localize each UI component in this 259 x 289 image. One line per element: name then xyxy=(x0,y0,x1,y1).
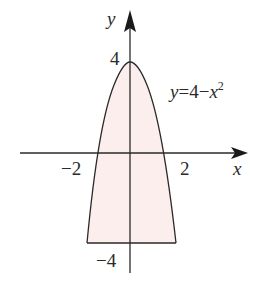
equation-rhs: =4− xyxy=(178,81,209,102)
equation-exponent: 2 xyxy=(218,79,224,93)
curve-equation-label: y=4−x2 xyxy=(168,79,224,102)
x-axis-label: x xyxy=(232,158,242,179)
equation-lhs: y xyxy=(168,81,179,102)
tick-label-y-neg4: −4 xyxy=(96,250,117,271)
y-axis-label: y xyxy=(105,8,116,29)
tick-label-y-4: 4 xyxy=(110,48,120,69)
tick-label-x-neg2: −2 xyxy=(61,158,81,179)
parabola-figure: y x 4 −2 2 −4 y=4−x2 xyxy=(0,0,259,289)
tick-label-x-2: 2 xyxy=(180,158,190,179)
